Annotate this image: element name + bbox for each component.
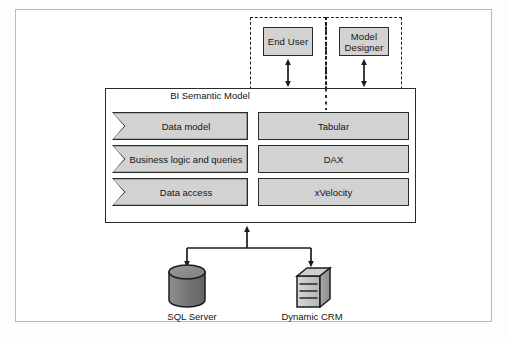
technology-row-2[interactable]: xVelocity: [258, 178, 409, 206]
capability-label-0: Data model: [112, 112, 248, 140]
model-designer-label: Model Designer: [340, 31, 388, 53]
capability-row-0[interactable]: Data model: [112, 112, 248, 140]
technology-row-1[interactable]: DAX: [258, 145, 409, 173]
technology-row-0[interactable]: Tabular: [258, 112, 409, 140]
bi-semantic-model-title: BI Semantic Model: [125, 90, 295, 101]
model-designer-box[interactable]: Model Designer: [339, 27, 389, 56]
sql-server-label: SQL Server: [142, 311, 242, 322]
capability-label-2: Data access: [112, 178, 248, 206]
technology-label-1: DAX: [324, 154, 344, 165]
end-user-label: End User: [268, 36, 308, 47]
end-user-box[interactable]: End User: [263, 27, 313, 56]
capability-row-2[interactable]: Data access: [112, 178, 248, 206]
capability-row-1[interactable]: Business logic and queries: [112, 145, 248, 173]
capability-label-1: Business logic and queries: [112, 145, 248, 173]
dynamic-crm-label: Dynamic CRM: [262, 311, 362, 322]
technology-label-2: xVelocity: [315, 187, 353, 198]
bi-semantic-model-diagram: End User Model Designer BI Semantic Mode…: [0, 0, 507, 339]
technology-label-0: Tabular: [318, 121, 349, 132]
